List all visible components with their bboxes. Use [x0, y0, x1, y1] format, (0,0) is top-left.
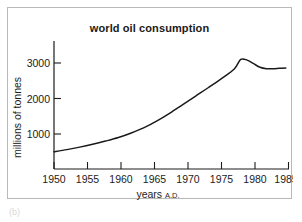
y-tick-label-3000: 3000	[27, 57, 51, 69]
figure-caption-fragment: (b)	[9, 205, 49, 219]
y-axis-title: millions of tonnes	[11, 77, 23, 158]
y-tick-label-2000: 2000	[27, 93, 51, 105]
x-tick-label-1960: 1960	[109, 173, 133, 185]
x-axis-ticks	[54, 162, 289, 169]
x-tick-label-1965: 1965	[143, 173, 167, 185]
x-tick-label-1955: 1955	[76, 173, 100, 185]
x-axis-title-main: years	[136, 188, 162, 200]
x-tick-label-1970: 1970	[176, 173, 200, 185]
x-axis-title-suffix: A.D.	[165, 191, 180, 200]
data-series-line	[54, 59, 286, 152]
x-tick-label-1975: 1975	[210, 173, 234, 185]
figure-root: world oil consumption	[0, 0, 302, 222]
x-tick-label-1950: 1950	[42, 173, 66, 185]
x-axis-title: years A.D.	[136, 188, 179, 200]
y-tick-label-1000: 1000	[27, 128, 51, 140]
chart-plot-area: 3000 2000 1000 1950 1955 1960 1965 1970 …	[8, 8, 293, 200]
x-tick-label-1980: 1980	[243, 173, 267, 185]
chart-frame: world oil consumption	[7, 7, 292, 199]
x-tick-label-1985: 1985	[274, 173, 293, 185]
y-axis-ticks	[54, 63, 61, 134]
